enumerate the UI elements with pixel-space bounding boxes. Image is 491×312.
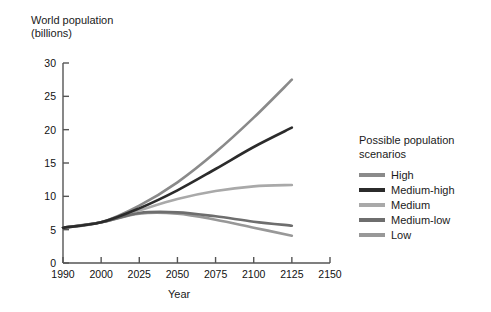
y-tick-label: 20 <box>18 124 56 136</box>
legend-item-label: Low <box>391 229 411 241</box>
x-tick-label: 2050 <box>166 268 189 280</box>
legend-item-label: Medium-high <box>391 184 455 196</box>
x-axis-ticks <box>63 257 330 263</box>
legend-item: High <box>359 167 489 182</box>
y-tick-label: 30 <box>18 57 56 69</box>
legend: Possible population scenarios HighMedium… <box>359 133 489 242</box>
x-tick-label: 2025 <box>128 268 151 280</box>
y-axis-ticks <box>63 63 69 263</box>
x-tick-label: 2150 <box>318 268 341 280</box>
y-tick-label: 25 <box>18 90 56 102</box>
y-tick-label: 15 <box>18 157 56 169</box>
legend-color-swatch <box>359 203 385 207</box>
legend-item-label: Medium-low <box>391 214 450 226</box>
chart-figure: World population (billions) 302520151050… <box>0 0 491 312</box>
y-tick-label: 5 <box>18 224 56 236</box>
axis-lines <box>63 63 330 263</box>
legend-color-swatch <box>359 173 385 177</box>
x-tick-label: 2125 <box>280 268 303 280</box>
legend-color-swatch <box>359 218 385 222</box>
x-axis-title: Year <box>168 288 190 301</box>
legend-item: Medium-low <box>359 212 489 227</box>
y-tick-label: 0 <box>18 257 56 269</box>
legend-items: HighMedium-highMediumMedium-lowLow <box>359 167 489 242</box>
series-line <box>63 80 292 228</box>
legend-item-label: High <box>391 169 414 181</box>
x-tick-label: 2000 <box>89 268 112 280</box>
y-tick-label: 10 <box>18 190 56 202</box>
legend-item-label: Medium <box>391 199 430 211</box>
legend-color-swatch <box>359 188 385 192</box>
legend-color-swatch <box>359 233 385 237</box>
x-tick-label: 2100 <box>242 268 265 280</box>
legend-item: Low <box>359 227 489 242</box>
legend-item: Medium-high <box>359 182 489 197</box>
legend-title: Possible population scenarios <box>359 133 489 161</box>
data-series-group <box>63 80 292 236</box>
x-tick-label: 1990 <box>51 268 74 280</box>
x-tick-label: 2075 <box>204 268 227 280</box>
legend-item: Medium <box>359 197 489 212</box>
